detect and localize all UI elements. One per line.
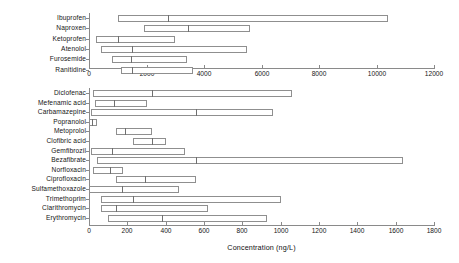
- median-line: [196, 157, 197, 164]
- box: [133, 138, 166, 145]
- box-plot-trimethoprim: [0, 196, 459, 203]
- x-tick: [281, 222, 282, 225]
- median-line: [152, 138, 153, 145]
- box-plot-sulfamethoxazole: [0, 186, 459, 193]
- chart-panel-top: 020004000600080001000012000IbuprofenNapr…: [0, 0, 459, 85]
- x-axis-title: Concentration (ng/L): [89, 243, 434, 252]
- x-tick: [434, 222, 435, 225]
- box-plot-naproxen: [0, 25, 459, 32]
- median-line: [145, 176, 146, 183]
- median-line: [92, 119, 93, 126]
- median-line: [114, 100, 115, 107]
- x-tick: [127, 222, 128, 225]
- x-tick: [242, 222, 243, 225]
- box: [112, 56, 187, 63]
- x-tick-label: 1000: [261, 227, 301, 235]
- x-tick-label: 600: [184, 227, 224, 235]
- x-tick: [204, 222, 205, 225]
- x-tick: [396, 222, 397, 225]
- median-line: [131, 56, 132, 63]
- box-plot-furosemide: [0, 56, 459, 63]
- box-plot-diclofenac: [0, 90, 459, 97]
- box-plot-erythromycin: [0, 215, 459, 222]
- box: [108, 215, 267, 222]
- x-tick: [357, 222, 358, 225]
- median-line: [112, 148, 113, 155]
- x-tick-label: 800: [222, 227, 262, 235]
- median-line: [162, 215, 163, 222]
- x-tick-label: 1400: [337, 227, 377, 235]
- x-tick-label: 0: [69, 227, 109, 235]
- median-line: [152, 90, 153, 97]
- x-tick: [166, 222, 167, 225]
- box: [95, 100, 147, 107]
- box: [118, 15, 388, 22]
- median-line: [110, 167, 111, 174]
- box: [101, 196, 281, 203]
- box-plot-bezafibrate: [0, 157, 459, 164]
- box: [93, 90, 292, 97]
- median-line: [188, 25, 189, 32]
- x-tick-label: 200: [107, 227, 147, 235]
- x-axis-line: [89, 225, 435, 226]
- x-tick-label: 1800: [414, 227, 454, 235]
- median-line: [168, 15, 169, 22]
- box-plot-carbamazepine: [0, 109, 459, 116]
- median-line: [133, 196, 134, 203]
- box: [116, 176, 197, 183]
- box-plot-atenolol: [0, 46, 459, 53]
- x-tick: [319, 222, 320, 225]
- box-plot-ketoprofen: [0, 36, 459, 43]
- box: [91, 148, 185, 155]
- box: [144, 25, 250, 32]
- x-tick-label: 1200: [299, 227, 339, 235]
- x-tick-label: 400: [146, 227, 186, 235]
- x-tick: [89, 222, 90, 225]
- box: [101, 46, 248, 53]
- box-plot-popranolol: [0, 119, 459, 126]
- median-line: [132, 46, 133, 53]
- chart-panel-bottom: 020040060080010001200140016001800Diclofe…: [0, 85, 459, 263]
- median-line: [122, 186, 123, 193]
- box-plot-ranitidine: [0, 67, 459, 74]
- box-plot-ibuprofen: [0, 15, 459, 22]
- box-plot-norfloxacin: [0, 167, 459, 174]
- median-line: [116, 205, 117, 212]
- box: [93, 167, 124, 174]
- box-plot-metoprolol: [0, 128, 459, 135]
- box-plot-clofibric-acid: [0, 138, 459, 145]
- box: [91, 109, 273, 116]
- box: [96, 36, 175, 43]
- box-plot-mefenamic-acid: [0, 100, 459, 107]
- box-plot-gemfibrozil: [0, 148, 459, 155]
- boxplot-figure: 020004000600080001000012000IbuprofenNapr…: [0, 0, 459, 263]
- x-tick-label: 1600: [376, 227, 416, 235]
- median-line: [118, 36, 119, 43]
- box: [116, 128, 152, 135]
- median-line: [125, 128, 126, 135]
- box: [89, 186, 179, 193]
- box-plot-ciprofloxacin: [0, 176, 459, 183]
- median-line: [132, 67, 133, 74]
- median-line: [196, 109, 197, 116]
- box-plot-clarithromycin: [0, 205, 459, 212]
- box: [97, 157, 404, 164]
